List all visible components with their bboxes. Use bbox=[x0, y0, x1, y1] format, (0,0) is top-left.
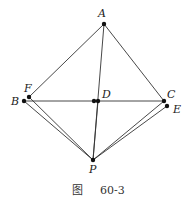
point-C bbox=[162, 99, 166, 103]
segment-DP bbox=[93, 101, 98, 160]
label-A: A bbox=[97, 7, 106, 20]
points bbox=[22, 22, 169, 162]
point-F bbox=[27, 95, 31, 99]
label-C: C bbox=[167, 88, 176, 101]
segments bbox=[24, 24, 167, 160]
caption-number: 60-3 bbox=[100, 184, 125, 197]
segment-AF bbox=[29, 24, 104, 97]
segment-CP bbox=[93, 101, 164, 160]
segment-EP bbox=[93, 106, 167, 160]
segment-AC bbox=[104, 24, 164, 101]
label-B: B bbox=[10, 95, 19, 108]
segment-BP bbox=[24, 101, 93, 160]
label-D: D bbox=[101, 88, 111, 101]
caption-prefix: 图 bbox=[72, 184, 83, 197]
segment-FP bbox=[29, 97, 93, 160]
label-P: P bbox=[88, 163, 97, 176]
point-E bbox=[165, 104, 169, 108]
label-F: F bbox=[23, 82, 32, 95]
label-E: E bbox=[172, 103, 181, 116]
point-D bbox=[96, 99, 100, 103]
geometry-figure: AFBDCEP 图 60-3 bbox=[0, 0, 189, 207]
point-D-secondary bbox=[92, 99, 96, 103]
point-A bbox=[102, 22, 106, 26]
point-P bbox=[91, 158, 95, 162]
point-B bbox=[22, 99, 26, 103]
